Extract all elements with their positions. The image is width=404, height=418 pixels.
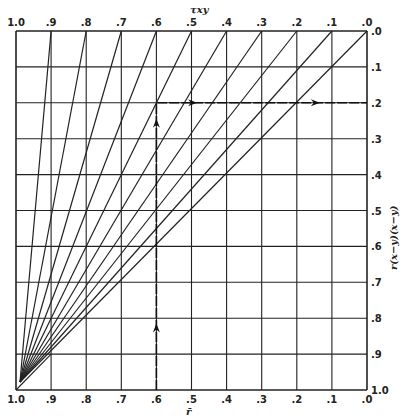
right-tick: .0 xyxy=(371,26,382,37)
bottom-axis-label: r̄ xyxy=(186,406,192,417)
bottom-tick: .3 xyxy=(256,394,267,405)
top-tick: .5 xyxy=(186,17,197,28)
right-tick: .6 xyxy=(371,241,382,252)
right-tick: .9 xyxy=(371,349,382,360)
right-tick: .2 xyxy=(371,98,382,109)
bottom-tick: .5 xyxy=(186,394,197,405)
right-axis-ticks: .0.1.2.3.4.5.6.7.8.91.0 xyxy=(371,26,389,396)
series-line xyxy=(20,31,332,382)
series-line xyxy=(20,31,156,382)
top-tick: .9 xyxy=(46,17,57,28)
series-line xyxy=(20,31,367,382)
top-tick: .8 xyxy=(81,17,92,28)
right-tick: .8 xyxy=(371,313,382,324)
bottom-tick: .4 xyxy=(221,394,232,405)
top-tick: 1.0 xyxy=(7,17,25,28)
right-axis-label: r(x−y)(x−y) xyxy=(388,205,399,270)
bottom-tick: .6 xyxy=(151,394,162,405)
top-tick: .7 xyxy=(116,17,127,28)
right-tick: .4 xyxy=(371,170,382,181)
series-line xyxy=(20,31,86,382)
right-tick: .3 xyxy=(371,134,382,145)
bottom-tick: .2 xyxy=(291,394,302,405)
bottom-tick: .1 xyxy=(327,394,338,405)
right-tick: .1 xyxy=(371,62,382,73)
bottom-tick: .8 xyxy=(81,394,92,405)
series-line xyxy=(20,31,262,382)
bottom-tick: .9 xyxy=(46,394,57,405)
top-tick: .6 xyxy=(151,17,162,28)
right-tick: .5 xyxy=(371,206,382,217)
right-tick: 1.0 xyxy=(371,385,389,396)
bottom-axis-ticks: 1.0.9.8.7.6.5.4.3.2.1.0 xyxy=(7,394,372,405)
top-tick: .4 xyxy=(221,17,232,28)
bottom-tick: 1.0 xyxy=(7,394,25,405)
top-tick: .1 xyxy=(327,17,338,28)
top-tick: .2 xyxy=(291,17,302,28)
top-axis-ticks: 1.0.9.8.7.6.5.4.3.2.1.0 xyxy=(7,17,372,28)
top-tick: .3 xyxy=(256,17,267,28)
bottom-tick: .7 xyxy=(116,394,127,405)
right-tick: .7 xyxy=(371,277,382,288)
top-axis-label: τxy xyxy=(190,4,210,15)
nomograph-chart: 1.0.9.8.7.6.5.4.3.2.1.0 1.0.9.8.7.6.5.4.… xyxy=(0,0,404,418)
